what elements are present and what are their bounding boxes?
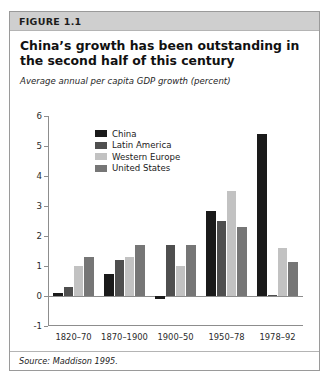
plot-area: -10123456 1820–701870–19001900–501950–78…: [10, 108, 319, 346]
title-block: China’s growth has been outstanding in t…: [10, 31, 319, 87]
legend-item: Latin America: [95, 140, 180, 152]
bar-western-europe: [74, 266, 84, 296]
y-tick-label: 3: [37, 201, 42, 211]
bar-china: [155, 296, 165, 299]
chart-legend: ChinaLatin AmericaWestern EuropeUnited S…: [95, 128, 180, 174]
x-axis-category-label: 1820–70: [55, 332, 91, 342]
figure-container: FIGURE 1.1 China’s growth has been outst…: [9, 11, 320, 371]
x-axis-category-label: 1900–50: [157, 332, 193, 342]
bar-latin-america: [166, 245, 176, 296]
bar-western-europe: [176, 266, 186, 296]
chart-subtitle: Average annual per capita GDP growth (pe…: [20, 76, 309, 87]
bar-group: 1978–92: [257, 116, 297, 326]
y-tick-label: 2: [37, 231, 42, 241]
legend-item: Western Europe: [95, 151, 180, 163]
legend-label: United States: [112, 163, 170, 173]
source-bar: Source: Maddison 1995.: [10, 351, 319, 370]
bar-latin-america: [268, 295, 278, 297]
y-tick-mark: [44, 116, 48, 117]
bar-united-states: [288, 262, 298, 297]
y-tick-mark: [44, 326, 48, 327]
bar-western-europe: [278, 248, 288, 296]
x-axis-category-label: 1978–92: [259, 332, 295, 342]
legend-item: China: [95, 128, 180, 140]
y-tick-mark: [44, 206, 48, 207]
bar-united-states: [186, 245, 196, 296]
legend-swatch-icon: [95, 142, 107, 149]
y-tick-mark: [44, 236, 48, 237]
legend-label: China: [112, 129, 137, 139]
y-tick-label: 0: [37, 291, 42, 301]
bar-latin-america: [217, 221, 227, 296]
legend-swatch-icon: [95, 165, 107, 172]
legend-swatch-icon: [95, 130, 107, 137]
x-axis-category-label: 1950–78: [208, 332, 244, 342]
figure-header-band: FIGURE 1.1: [10, 12, 319, 31]
y-tick-label: 5: [37, 141, 42, 151]
y-tick-mark: [44, 266, 48, 267]
y-tick-label: -1: [33, 321, 42, 331]
bar-latin-america: [64, 287, 74, 296]
bar-china: [53, 293, 63, 296]
bar-western-europe: [227, 191, 237, 296]
bar-china: [257, 134, 267, 296]
legend-item: United States: [95, 163, 180, 175]
bar-china: [206, 211, 216, 297]
bar-latin-america: [115, 260, 125, 296]
y-tick-label: 4: [37, 171, 42, 181]
figure-number-label: FIGURE 1.1: [10, 16, 81, 27]
y-tick-label: 6: [37, 111, 42, 121]
bar-group: 1820–70: [53, 116, 93, 326]
source-text: Source: Maddison 1995.: [10, 356, 118, 366]
bar-united-states: [84, 257, 94, 296]
plot-frame: -10123456 1820–701870–19001900–501950–78…: [48, 116, 303, 326]
bar-china: [104, 274, 114, 297]
y-tick-mark: [44, 176, 48, 177]
legend-label: Latin America: [112, 140, 171, 150]
bar-western-europe: [125, 257, 135, 296]
legend-swatch-icon: [95, 153, 107, 160]
bar-group: 1950–78: [206, 116, 246, 326]
bar-united-states: [135, 245, 145, 296]
bar-united-states: [237, 227, 247, 296]
chart-title: China’s growth has been outstanding in t…: [20, 39, 309, 68]
y-tick-label: 1: [37, 261, 42, 271]
x-axis-category-label: 1870–1900: [101, 332, 148, 342]
y-tick-mark: [44, 146, 48, 147]
legend-label: Western Europe: [112, 152, 180, 162]
y-axis-line: [48, 116, 49, 326]
